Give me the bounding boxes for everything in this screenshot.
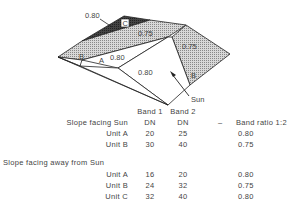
ratio-label-top-face: 0.75 [138,29,153,38]
row-unit-label: Unit B [0,140,128,149]
row-band2: 40 [169,192,197,201]
row-ratio: 0.75 [238,140,254,149]
row-unit-label: Unit C [0,192,128,201]
sun-label: Sun [191,95,204,104]
ratio-label-top-left: 0.80 [85,11,100,20]
row-ratio: 0.80 [238,170,254,179]
row-unit-label: Unit B [0,181,128,190]
row-band1: 16 [136,170,164,179]
row-ratio: 0.80 [238,192,254,201]
header-band2: Band 2 [169,107,197,116]
row-unit-label: Unit A [0,129,128,138]
header-dash: – [218,118,222,127]
ratio-label-unit-a: 0.80 [110,53,125,62]
terrain-block-diagram: 0.80 C 0.75 0.75 B A 0.80 0.80 B Sun [0,0,303,110]
row-band2: 40 [169,140,197,149]
header-band-ratio: Band ratio 1:2 [236,118,287,127]
ratio-label-right-face: 0.75 [182,42,197,51]
row-band1: 32 [136,192,164,201]
unit-label-c: C [123,19,129,28]
header-band2-dn: DN [169,118,197,127]
unit-label-b-right: B [191,71,196,80]
row-band2: 32 [169,181,197,190]
row-band2: 20 [169,170,197,179]
unit-label-a: A [99,56,104,65]
unit-label-b-left: B [79,52,84,61]
row-band1: 24 [136,181,164,190]
header-band1: Band 1 [136,107,164,116]
group-title-facing-away: Slope facing away from Sun [3,158,104,167]
row-band2: 25 [169,129,197,138]
group-title-facing-sun: Slope facing Sun [0,118,128,127]
row-band1: 30 [136,140,164,149]
row-ratio: 0.75 [238,181,254,190]
row-ratio: 0.80 [238,129,254,138]
header-band1-dn: DN [136,118,164,127]
row-unit-label: Unit A [0,170,128,179]
ratio-label-front-face: 0.80 [138,68,153,77]
row-band1: 20 [136,129,164,138]
